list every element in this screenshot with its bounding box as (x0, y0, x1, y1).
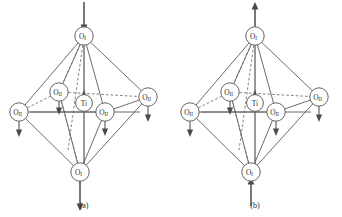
eq-left-displacement-arrow (187, 121, 193, 137)
node-oxygen-axial-top[interactable]: OI (246, 27, 264, 45)
node-label-subscript: I (255, 35, 257, 41)
eq-front-displacement-arrow (102, 121, 108, 136)
svg-text:Ti: Ti (81, 99, 87, 108)
node-oxygen-equatorial-right[interactable]: OII (310, 88, 328, 106)
node-label-text: Ti (252, 99, 258, 108)
panel-a: OI OI OII OII OII (0, 0, 171, 217)
svg-text:Ti: Ti (252, 99, 258, 108)
node-oxygen-axial-bottom[interactable]: OI (242, 163, 260, 181)
eq-right-displacement-arrow (316, 106, 322, 122)
node-label-subscript: I (80, 171, 82, 177)
node-oxygen-equatorial-left[interactable]: OII (181, 103, 199, 121)
panel-caption: (b) (250, 201, 260, 210)
node-oxygen-axial-bottom[interactable]: OI (71, 163, 89, 181)
eq-right-displacement-arrow (145, 106, 151, 122)
node-titanium-center[interactable]: Ti (76, 95, 93, 112)
node-label-subscript: II (229, 91, 233, 97)
node-oxygen-equatorial-right[interactable]: OII (139, 88, 157, 106)
node-label-subscript: II (275, 111, 279, 117)
panel-caption: (a) (79, 201, 88, 210)
node-label-subscript: II (189, 111, 193, 117)
figure-root: OI OI OII OII OII (0, 0, 342, 217)
node-label-subscript: II (318, 96, 322, 102)
node-oxygen-equatorial-back[interactable]: OII (221, 83, 239, 101)
node-label-text: Ti (81, 99, 87, 108)
eq-back-displacement-arrow (227, 101, 233, 115)
node-oxygen-equatorial-back[interactable]: OII (50, 83, 68, 101)
node-oxygen-axial-top[interactable]: OI (75, 27, 93, 45)
node-oxygen-equatorial-front[interactable]: OII (267, 103, 285, 121)
node-label-subscript: I (251, 171, 253, 177)
node-titanium-center[interactable]: Ti (247, 95, 264, 112)
node-label-subscript: II (104, 111, 108, 117)
eq-back-displacement-arrow (56, 101, 62, 115)
node-oxygen-equatorial-left[interactable]: OII (10, 103, 28, 121)
node-label-subscript: II (58, 91, 62, 97)
eq-left-displacement-arrow (16, 121, 22, 137)
node-label-subscript: II (18, 111, 22, 117)
eq-front-displacement-arrow (273, 121, 279, 136)
node-label-subscript: II (147, 96, 151, 102)
node-oxygen-equatorial-front[interactable]: OII (96, 103, 114, 121)
panel-b: OI OI OII OII OII (171, 0, 342, 217)
node-label-subscript: I (84, 35, 86, 41)
apex-top-displacement-arrow (252, 2, 259, 27)
